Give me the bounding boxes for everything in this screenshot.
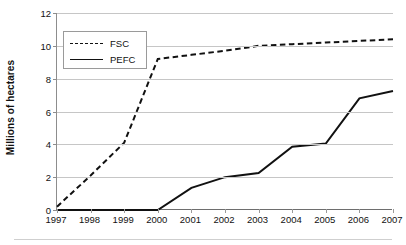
y-tick-label: 8: [46, 73, 51, 84]
x-tick-label: 2006: [348, 214, 369, 225]
chart-legend: FSC PEFC: [63, 31, 147, 69]
x-tick-label: 2001: [180, 214, 201, 225]
x-tick-label: 2003: [247, 214, 268, 225]
x-tick-label: 2004: [281, 214, 302, 225]
y-tick-mark: [53, 13, 57, 14]
y-tick-mark: [53, 46, 57, 47]
y-tick-mark: [53, 79, 57, 80]
y-tick-label: 10: [40, 40, 51, 51]
x-tick-label: 1998: [79, 214, 100, 225]
gridline: [57, 112, 393, 113]
dashed-line-swatch: [70, 39, 103, 47]
x-tick-label: 2000: [146, 214, 167, 225]
y-tick-label: 4: [46, 139, 51, 150]
gridline: [57, 144, 393, 145]
gridline: [57, 13, 393, 14]
x-tick-label: 2007: [381, 214, 402, 225]
y-tick-label: 6: [46, 106, 51, 117]
x-tick-label: 2002: [213, 214, 234, 225]
y-tick-mark: [53, 177, 57, 178]
y-tick-mark: [53, 112, 57, 113]
x-tick-label: 1999: [113, 214, 134, 225]
gridline: [57, 177, 393, 178]
y-tick-label: 12: [40, 8, 51, 19]
solid-line-swatch: [70, 55, 103, 63]
x-tick-mark: [393, 209, 394, 213]
chart-figure: Millions of hectares 024681012 199719981…: [0, 0, 406, 245]
bottom-divider: [14, 239, 392, 240]
x-axis-tick-labels: 1997199819992000200120022003200420052006…: [56, 212, 392, 232]
x-tick-label: 2005: [314, 214, 335, 225]
y-tick-mark: [53, 144, 57, 145]
legend-item-pefc: PEFC: [64, 51, 146, 67]
legend-item-fsc: FSC: [64, 35, 146, 51]
y-tick-label: 2: [46, 172, 51, 183]
legend-label-pefc: PEFC: [110, 54, 135, 65]
gridline: [57, 79, 393, 80]
y-axis-title-text: Millions of hectares: [6, 60, 17, 155]
series-line-pefc: [57, 91, 393, 210]
legend-label-fsc: FSC: [110, 38, 129, 49]
y-axis-tick-labels: 024681012: [22, 0, 56, 245]
y-axis-title: Millions of hectares: [0, 0, 22, 215]
x-tick-label: 1997: [45, 214, 66, 225]
